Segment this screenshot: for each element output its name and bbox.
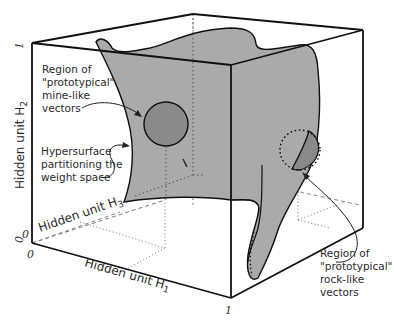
svg-text:Hidden unit H1: Hidden unit H1 [83, 255, 172, 295]
tick-h1-0: 0 [27, 248, 34, 261]
rock-annotation-line3: rock-like [320, 273, 364, 285]
hypersurface-annotation-line1: Hypersurface [41, 145, 111, 157]
weight-space-diagram: Region of "prototypical" mine-like vecto… [0, 0, 394, 324]
rock-annotation-line4: vectors [320, 286, 359, 298]
mine-region-circle [144, 102, 188, 146]
mine-annotation: Region of "prototypical" mine-like vecto… [42, 63, 114, 114]
mine-annotation-line1: Region of [42, 63, 92, 75]
rock-annotation-line2: "prototypical" [320, 260, 392, 272]
hypersurface-annotation-line2: partitioning the [41, 158, 122, 170]
axis-h2-text: Hidden unit H [13, 107, 27, 189]
mine-annotation-line2: "prototypical" [42, 76, 114, 88]
rock-annotation: Region of "prototypical" rock-like vecto… [320, 247, 392, 298]
axis-h3-text: Hidden unit H [36, 195, 119, 235]
hypersurface [96, 28, 320, 279]
hypersurface-annotation-line3: weight space [41, 171, 111, 183]
tick-h2-1: 1 [13, 42, 26, 49]
mine-annotation-line3: mine-like [42, 89, 90, 101]
tick-h1-1: 1 [225, 304, 232, 317]
axis-h2-label: Hidden unit H2 [13, 101, 29, 189]
axis-h1-label: Hidden unit H1 [83, 255, 172, 295]
hypersurface-annotation: Hypersurface partitioning the weight spa… [41, 145, 122, 183]
rock-annotation-line1: Region of [320, 247, 370, 259]
mine-annotation-line4: vectors [42, 102, 81, 114]
axis-h1-text: Hidden unit H [83, 255, 166, 291]
cube-figure: Region of "prototypical" mine-like vecto… [0, 0, 394, 324]
axis-h2-subscript: 2 [19, 101, 29, 107]
svg-text:Hidden unit H2: Hidden unit H2 [13, 101, 29, 189]
tick-h3-0: 0 [22, 228, 29, 241]
